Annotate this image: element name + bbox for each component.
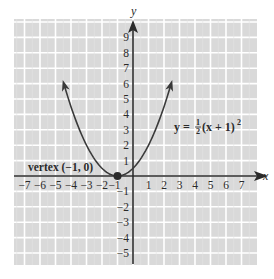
x-tick-label: −5 [49, 179, 61, 191]
y-tick-label: −3 [117, 216, 129, 228]
x-tick-label: 2 [161, 179, 167, 191]
vertex-label: vertex (−1, 0) [28, 161, 93, 174]
x-tick-label: 1 [146, 179, 152, 191]
y-tick-label: 3 [123, 124, 129, 136]
x-tick-label: −4 [65, 179, 77, 191]
plot-canvas: −7−6−5−4−3−2−11234567 987654321−1−2−3−4−… [0, 0, 274, 279]
x-tick-label: 5 [208, 179, 214, 191]
x-tick-label: −3 [80, 179, 92, 191]
x-tick-label: 7 [239, 179, 245, 191]
y-tick-label: −5 [117, 247, 129, 259]
y-tick-label: 5 [123, 93, 129, 105]
x-tick-label: 4 [192, 179, 198, 191]
equation-exponent: 2 [237, 118, 241, 127]
y-tick-label: 7 [123, 62, 129, 74]
vertex-point [114, 172, 122, 180]
y-tick-label: 4 [123, 108, 129, 120]
parabola-figure: −7−6−5−4−3−2−11234567 987654321−1−2−3−4−… [0, 0, 274, 279]
y-tick-label: 8 [123, 47, 129, 59]
y-tick-label: −4 [117, 232, 129, 244]
y-tick-label: −1 [117, 185, 129, 197]
equation-fraction-denominator: 2 [196, 127, 200, 136]
y-tick-label: −2 [117, 201, 129, 213]
equation-fraction-numerator: 1 [196, 118, 200, 127]
x-tick-label: −6 [34, 179, 46, 191]
y-axis-label: y [130, 4, 137, 18]
x-axis-label: x [262, 169, 269, 183]
x-tick-label: −2 [96, 179, 108, 191]
x-tick-label: −7 [18, 179, 30, 191]
x-tick-label: 3 [177, 179, 183, 191]
equation-lhs: y = [174, 120, 190, 134]
equation-rhs: (x + 1) [202, 120, 235, 134]
y-tick-label: 6 [123, 78, 129, 90]
grid-background [14, 19, 257, 265]
x-tick-label: 6 [223, 179, 229, 191]
equation-label: y = 1 2 (x + 1) 2 [174, 118, 241, 136]
y-tick-label: 9 [123, 31, 129, 43]
y-tick-label: 2 [123, 139, 129, 151]
y-tick-label: 1 [123, 155, 129, 167]
